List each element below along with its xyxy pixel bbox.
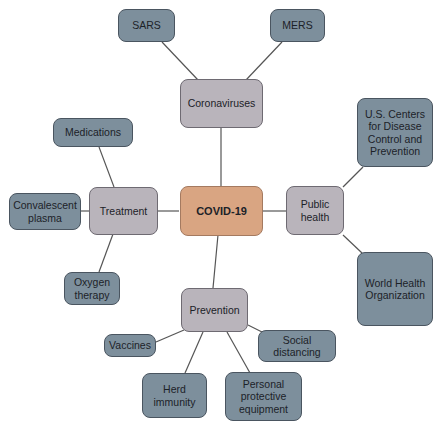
node-social-distancing: Social distancing (258, 330, 336, 362)
node-sars: SARS (118, 9, 175, 42)
node-vaccines: Vaccines (104, 334, 156, 357)
node-convalescent-plasma: Convalescent plasma (9, 193, 81, 230)
node-treatment: Treatment (89, 187, 158, 235)
node-prevention: Prevention (181, 288, 248, 332)
node-medications: Medications (53, 118, 133, 147)
node-covid-19: COVID-19 (180, 186, 263, 236)
node-who: World Health Organization (357, 252, 433, 326)
node-oxygen-therapy: Oxygen therapy (64, 272, 120, 305)
node-public-health: Public health (286, 186, 344, 235)
node-cdc: U.S. Centers for Disease Control and Pre… (357, 98, 433, 167)
node-herd-immunity: Herd immunity (142, 373, 207, 418)
node-ppe: Personal protective equipment (225, 372, 302, 421)
node-mers: MERS (270, 9, 325, 42)
node-coronaviruses: Coronaviruses (180, 79, 263, 128)
